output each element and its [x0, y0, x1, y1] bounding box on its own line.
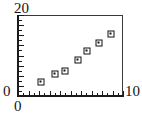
data-point-marker — [38, 78, 45, 85]
x-axis-tick-minor — [118, 93, 119, 96]
data-point-marker — [51, 71, 58, 78]
x-axis-origin-label: 0 — [14, 99, 22, 114]
plot-frame — [17, 15, 123, 96]
x-axis-tick-major — [92, 91, 93, 96]
x-axis-tick-major — [81, 91, 82, 96]
x-axis-tick-minor — [55, 93, 56, 96]
y-axis-tick-minor — [19, 40, 22, 41]
data-point-marker — [74, 56, 81, 63]
y-axis-tick-minor — [19, 81, 22, 82]
data-point-marker — [62, 67, 69, 74]
x-axis-tick-major — [71, 91, 72, 96]
y-axis-tick-major — [19, 25, 24, 26]
scatter-plot-figure: 20 0 0 10 — [0, 0, 142, 117]
x-axis-tick-major — [60, 91, 61, 96]
y-axis-tick-minor — [19, 61, 22, 62]
x-axis-tick-minor — [34, 93, 35, 96]
y-axis-tick-minor — [19, 30, 22, 31]
x-axis-tick-major — [113, 91, 114, 96]
y-axis-tick-minor — [19, 20, 22, 21]
x-axis-tick-minor — [107, 93, 108, 96]
data-point-marker — [84, 48, 91, 55]
y-axis-tick-minor — [19, 71, 22, 72]
y-axis-tick-minor — [19, 50, 22, 51]
data-point-marker — [95, 39, 102, 46]
y-axis-tick-major — [19, 76, 24, 77]
x-axis-tick-minor — [76, 93, 77, 96]
y-axis-tick-minor — [19, 91, 22, 92]
x-axis-tick-major — [102, 91, 103, 96]
y-axis-max-label: 20 — [14, 1, 29, 16]
x-axis-max-label: 10 — [125, 84, 140, 99]
x-axis-tick-minor — [65, 93, 66, 96]
y-axis-tick-major — [19, 66, 24, 67]
y-axis-tick-major — [19, 45, 24, 46]
x-axis-tick-major — [50, 91, 51, 96]
y-axis-tick-major — [19, 96, 24, 97]
x-axis-tick-major — [123, 91, 124, 96]
y-axis-tick-major — [19, 86, 24, 87]
x-axis-tick-minor — [97, 93, 98, 96]
x-axis-tick-major — [29, 91, 30, 96]
x-axis-tick-minor — [44, 93, 45, 96]
y-axis-origin-label: 0 — [3, 84, 11, 99]
data-point-marker — [108, 31, 115, 38]
y-axis-tick-major — [19, 35, 24, 36]
x-axis-tick-minor — [86, 93, 87, 96]
y-axis-tick-major — [19, 56, 24, 57]
x-axis-tick-major — [39, 91, 40, 96]
